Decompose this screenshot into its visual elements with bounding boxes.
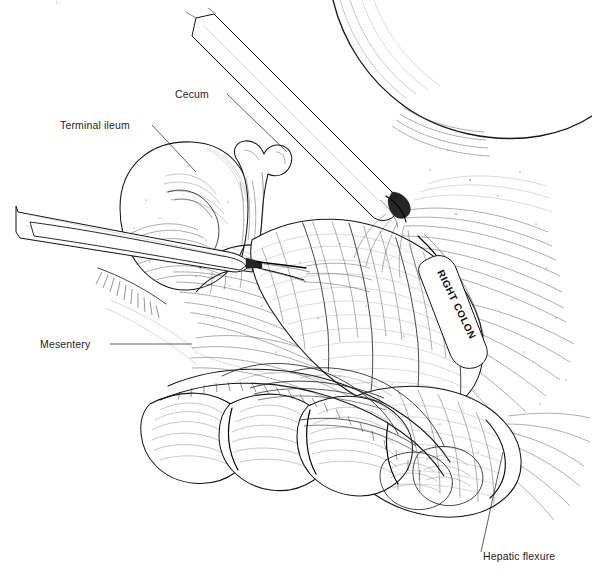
label-cecum: Cecum <box>175 88 209 100</box>
label-hepatic-flexure: Hepatic flexure <box>483 550 555 562</box>
label-terminal-ileum: Terminal ileum <box>60 119 130 131</box>
label-mesentery: Mesentery <box>40 338 91 350</box>
illustration-canvas: Terminal ileum Cecum Mesentery RIGHT COL… <box>0 0 592 583</box>
surgical-illustration: Terminal ileum Cecum Mesentery RIGHT COL… <box>0 0 592 583</box>
